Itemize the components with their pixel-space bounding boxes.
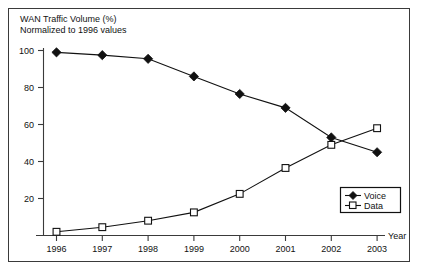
legend-label-voice: Voice xyxy=(364,191,386,201)
legend-label-data: Data xyxy=(364,201,383,211)
legend-marker-data-icon xyxy=(350,202,357,209)
x-tick-label-2000: 2000 xyxy=(230,244,250,254)
x-tick-label-2002: 2002 xyxy=(321,244,341,254)
data-point-data-2001 xyxy=(282,165,289,172)
data-point-voice-2000 xyxy=(235,89,244,98)
data-point-data-1999 xyxy=(191,209,198,216)
x-axis-ticks xyxy=(57,236,378,242)
x-tick-label-1999: 1999 xyxy=(184,244,204,254)
x-tick-label-2001: 2001 xyxy=(275,244,295,254)
y-tick-label-80: 80 xyxy=(24,83,34,93)
x-tick-label-2003: 2003 xyxy=(367,244,387,254)
data-point-data-1996 xyxy=(53,228,60,235)
y-tick-label-100: 100 xyxy=(19,46,34,56)
y-tick-label-60: 60 xyxy=(24,120,34,130)
data-point-voice-2001 xyxy=(281,103,290,112)
data-point-voice-2003 xyxy=(373,148,382,157)
data-point-voice-1998 xyxy=(144,54,153,63)
data-point-data-1997 xyxy=(99,224,106,231)
chart-figure: WAN Traffic Volume (%) Normalized to 199… xyxy=(0,0,421,272)
data-point-data-2002 xyxy=(328,141,335,148)
data-point-data-1998 xyxy=(145,217,152,224)
x-tick-label-1998: 1998 xyxy=(138,244,158,254)
y-axis-ticks xyxy=(38,51,44,199)
data-point-voice-1996 xyxy=(52,48,61,57)
plot-area: 100 80 60 40 20 1996 1997 1998 1999 2000… xyxy=(0,0,421,272)
data-point-data-2000 xyxy=(236,190,243,197)
data-point-voice-1997 xyxy=(98,51,107,60)
x-axis-label: Year xyxy=(388,231,406,241)
series-data xyxy=(53,125,380,235)
data-point-voice-2002 xyxy=(327,133,336,142)
chart-legend: Voice Data xyxy=(341,188,401,213)
y-tick-label-40: 40 xyxy=(24,157,34,167)
x-tick-label-1996: 1996 xyxy=(46,244,66,254)
x-tick-label-1997: 1997 xyxy=(92,244,112,254)
series-voice xyxy=(52,48,382,157)
data-point-voice-1999 xyxy=(189,72,198,81)
y-tick-label-20: 20 xyxy=(24,194,34,204)
data-point-data-2003 xyxy=(374,125,381,132)
